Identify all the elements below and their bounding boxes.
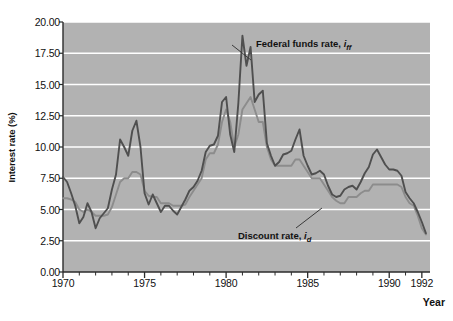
x-tick-label: 1990	[378, 277, 401, 289]
y-tick-label: 7.50	[18, 172, 60, 184]
annotation-text: Federal funds rate,	[256, 38, 344, 49]
annotation-symbol: id	[304, 230, 311, 241]
x-tick-label: 1970	[52, 277, 75, 289]
y-tick-label: 20.00	[18, 16, 60, 28]
y-tick-label: 12.50	[18, 110, 60, 122]
x-tick-label: 1985	[296, 277, 319, 289]
y-tick-label: 2.50	[18, 235, 60, 247]
y-tick-label: 5.00	[18, 204, 60, 216]
y-tick-label: 15.00	[18, 79, 60, 91]
x-tick-label: 1980	[215, 277, 238, 289]
y-tick-label: 10.00	[18, 141, 60, 153]
x-tick-label: 1975	[133, 277, 156, 289]
y-tick-label: 17.50	[18, 47, 60, 59]
series-annotation-federal-funds: Federal funds rate, iff	[256, 38, 351, 52]
y-axis-tick-labels: 0.002.505.007.5010.0012.5015.0017.5020.0…	[16, 0, 60, 321]
series-annotation-discount: Discount rate, id	[238, 230, 311, 244]
x-tick-label: 1992	[411, 277, 434, 289]
x-axis-title: Year	[423, 296, 445, 308]
y-axis-title: Interest rate (%)	[6, 112, 17, 182]
annotation-symbol: iff	[344, 38, 352, 49]
chart-figure: Interest rate (%) 0.002.505.007.5010.001…	[0, 0, 453, 321]
plot-canvas	[0, 0, 453, 321]
annotation-text: Discount rate,	[238, 230, 304, 241]
